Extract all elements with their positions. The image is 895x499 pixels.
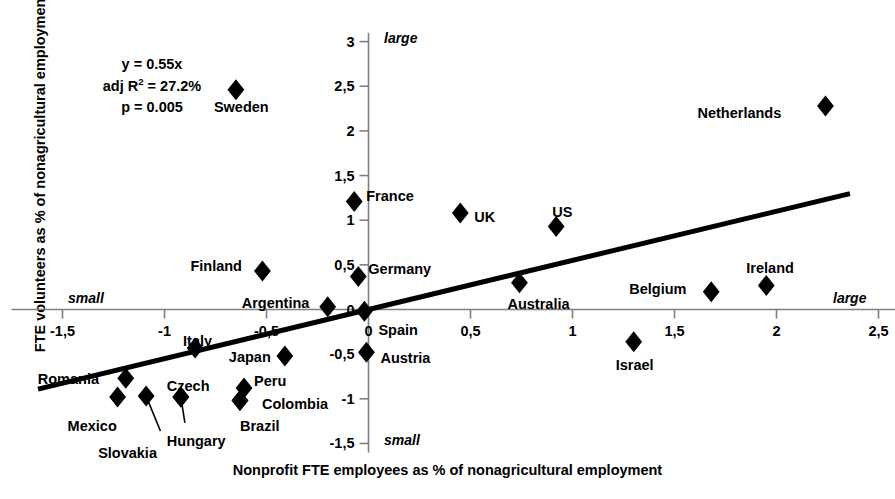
data-point-marker <box>356 301 373 322</box>
annotation-large-top: large <box>384 30 417 46</box>
data-point-label: Germany <box>368 261 431 277</box>
label-leader-line <box>146 396 160 431</box>
x-tick-label: 1,5 <box>664 323 684 339</box>
data-point-label: Argentina <box>242 295 310 311</box>
data-point-marker <box>703 281 720 302</box>
data-point-label: France <box>366 188 414 204</box>
y-tick-label: -0,5 <box>299 346 355 362</box>
data-point-label: Mexico <box>68 418 117 434</box>
y-tick-label: 2 <box>299 123 355 139</box>
data-point-label: Israel <box>616 357 654 373</box>
data-point-label: Ireland <box>746 260 794 276</box>
data-point-label: Belgium <box>629 281 686 297</box>
data-point-label: Romania <box>38 371 99 387</box>
y-tick-label: 3 <box>299 34 355 50</box>
x-tick-label: 2 <box>772 323 780 339</box>
data-point-marker <box>625 331 642 352</box>
y-tick-label: 2,5 <box>299 78 355 94</box>
scatter-chart-figure: FTE volunteers as % of nonagricultural e… <box>0 0 895 499</box>
data-point-label: Sweden <box>214 99 269 115</box>
data-point-marker <box>254 261 271 282</box>
x-tick-label: -1 <box>158 323 171 339</box>
y-tick-label: 1 <box>299 212 355 228</box>
data-point-label: Austria <box>380 350 430 366</box>
y-tick-label: 0,5 <box>299 257 355 273</box>
data-point-label: Peru <box>254 373 286 389</box>
data-point-label: Netherlands <box>697 105 781 121</box>
data-point-label: Czech <box>167 378 210 394</box>
data-point-marker <box>276 345 293 366</box>
data-point-marker <box>228 79 245 100</box>
y-tick-label: -1,5 <box>299 435 355 451</box>
data-point-marker <box>109 387 126 408</box>
x-tick-label: 1 <box>568 323 576 339</box>
data-point-label: Australia <box>507 296 569 312</box>
data-point-label: Brazil <box>240 418 280 434</box>
x-tick-label: 2,5 <box>868 323 888 339</box>
plot-canvas <box>0 0 895 499</box>
data-point-label: Spain <box>378 322 417 338</box>
data-point-label: US <box>552 204 572 220</box>
x-tick-label: -1,5 <box>50 323 75 339</box>
annotation-small-bottom: small <box>384 432 420 448</box>
data-point-label: Japan <box>229 349 271 365</box>
data-point-marker <box>346 191 363 212</box>
data-point-marker <box>758 275 775 296</box>
data-point-label: UK <box>474 209 495 225</box>
x-tick-label: 0 <box>364 323 372 339</box>
data-point-label: Finland <box>190 258 242 274</box>
data-point-label: Hungary <box>167 433 226 449</box>
regression-fit-line <box>38 194 850 389</box>
data-point-marker <box>817 95 834 116</box>
annotation-small-left: small <box>68 290 104 306</box>
x-tick-label: 0,5 <box>460 323 480 339</box>
annotation-large-right: large <box>833 290 866 306</box>
data-point-label: Colombia <box>262 396 328 412</box>
x-tick-label: -0,5 <box>254 323 279 339</box>
data-point-label: Slovakia <box>98 445 157 461</box>
y-tick-label: 1,5 <box>299 168 355 184</box>
data-point-marker <box>452 203 469 224</box>
data-point-label: Italy <box>183 333 212 349</box>
data-point-marker <box>358 342 375 363</box>
